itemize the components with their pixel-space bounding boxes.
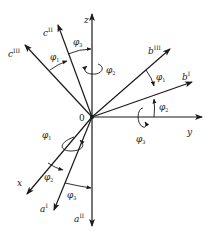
phi2-label-right: φ2 (159, 102, 169, 113)
b1-label: bI (182, 70, 191, 82)
a2-label: aII (74, 212, 85, 224)
c3-axis (25, 45, 92, 117)
x-label: x (17, 178, 22, 188)
b1-axis (92, 82, 192, 117)
origin-label: 0 (79, 113, 85, 123)
rotation-diagram: z y x cII cIII bIII bI aI aII 0 φ3 φ1 φ2… (0, 0, 209, 232)
z-label: z (83, 15, 89, 25)
phi2-label-z: φ2 (106, 65, 116, 76)
phi2-rotation-z (85, 64, 102, 74)
phi3-arc-bottom (65, 183, 91, 188)
phi3-label-y: φ3 (136, 134, 146, 145)
b3-label: bIII (148, 44, 162, 56)
y-label: y (186, 127, 193, 137)
phi1-label-top: φ1 (50, 52, 60, 63)
phi3-label-bottom: φ3 (67, 190, 77, 201)
phi1-label-right: φ1 (156, 72, 166, 83)
phi3-arc-top (68, 49, 91, 54)
phi1-arc-right (146, 70, 154, 86)
c3-label: cIII (8, 47, 21, 59)
a1-label: aI (40, 202, 48, 214)
c2-label: cII (43, 26, 53, 38)
phi2-arc-right (154, 99, 155, 117)
phi2-label-bottom: φ2 (44, 172, 54, 183)
phi3-label-top: φ3 (73, 37, 83, 48)
phi1-label-x: φ1 (42, 130, 52, 141)
origin-point (90, 115, 94, 119)
x-axis (27, 117, 92, 194)
